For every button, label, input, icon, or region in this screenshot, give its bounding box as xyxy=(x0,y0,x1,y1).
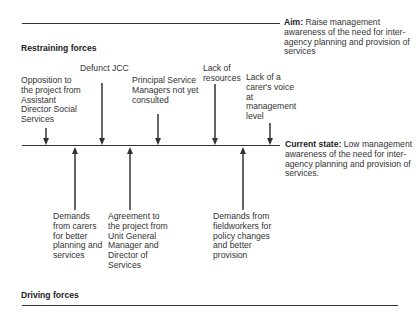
driving-force-3: Demands from fieldworkers for policy cha… xyxy=(213,212,275,261)
driving-arrow-2 xyxy=(127,147,133,210)
driving-forces-title: Driving forces xyxy=(21,291,79,301)
restraining-arrow-5 xyxy=(267,123,273,145)
force-arrows xyxy=(0,0,419,322)
restraining-arrow-3 xyxy=(155,114,161,145)
restraining-arrow-1 xyxy=(43,128,49,145)
driving-force-2: Agreement to the project from Unit Gener… xyxy=(108,212,168,271)
restraining-arrow-4 xyxy=(212,84,218,145)
driving-force-1: Demands from carers for better planning … xyxy=(53,212,103,261)
driving-arrow-3 xyxy=(240,147,246,210)
restraining-arrow-2 xyxy=(99,83,105,145)
driving-baseline xyxy=(22,305,398,306)
driving-arrow-1 xyxy=(72,147,78,210)
